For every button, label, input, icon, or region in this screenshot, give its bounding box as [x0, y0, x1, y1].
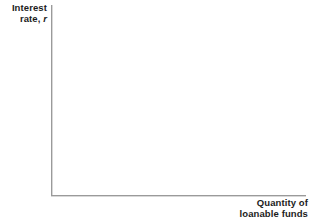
x-axis-label-line-2: loanable funds: [240, 209, 308, 220]
plot-area: [53, 6, 306, 195]
y-axis-label-text: rate,: [20, 13, 43, 24]
y-axis-label: Interest rate, r: [12, 3, 47, 24]
x-axis-line: [51, 195, 306, 196]
y-axis-label-line-2: rate, r: [12, 14, 47, 25]
y-axis-variable-symbol: r: [43, 13, 47, 24]
y-axis-line: [51, 5, 52, 196]
x-axis-label: Quantity of loanable funds: [240, 198, 308, 219]
x-axis-label-line-1: Quantity of: [240, 198, 308, 209]
loanable-funds-graph: Interest rate, r Quantity of loanable fu…: [0, 0, 309, 221]
